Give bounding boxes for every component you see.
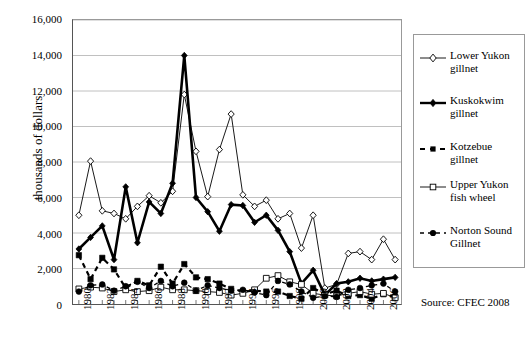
- y-tick-label: 0: [0, 300, 62, 311]
- data-point: [392, 256, 398, 263]
- data-point: [357, 275, 363, 281]
- data-point: [357, 248, 363, 255]
- data-point: [357, 285, 363, 291]
- legend-label: Norton Sound Gillnet: [450, 224, 512, 249]
- legend-label-line1: Kuskokwim: [450, 94, 504, 106]
- legend-item-kuskokwim-gillnet[interactable]: Kuskokwim gillnet: [419, 94, 520, 119]
- plot-area: [72, 19, 402, 305]
- data-point: [158, 278, 164, 284]
- data-point: [99, 282, 105, 288]
- legend-label: Lower Yukon gillnet: [450, 49, 510, 74]
- data-point: [392, 274, 398, 280]
- data-point: [263, 275, 269, 281]
- y-tick-label: 6,000: [0, 192, 62, 203]
- legend-key-open-square-icon: [419, 179, 447, 191]
- data-point: [205, 276, 210, 281]
- legend-label-line1: Norton Sound: [450, 224, 512, 236]
- data-point: [240, 287, 246, 293]
- legend-label-line2: fish wheel: [450, 191, 496, 203]
- legend-item-kotzebue-gillnet[interactable]: Kotzebue gillnet: [419, 140, 520, 165]
- data-point: [287, 282, 293, 288]
- data-point: [381, 281, 387, 287]
- data-point: [135, 240, 141, 246]
- data-point: [275, 278, 281, 284]
- data-point: [193, 275, 198, 280]
- x-tick-label: 1984: [129, 288, 140, 310]
- y-tick-label: 4,000: [0, 228, 62, 239]
- data-point: [334, 294, 340, 300]
- legend-label-line2: gillnet: [450, 107, 478, 119]
- x-tick-label: 1986: [153, 288, 164, 310]
- data-point: [193, 148, 199, 155]
- data-point: [181, 52, 187, 58]
- chart-legend: Lower Yukon gillnet Kuskokwim gillnet: [413, 34, 525, 268]
- legend-item-upper-yukon-fish-wheel[interactable]: Upper Yukon fish wheel: [419, 178, 520, 203]
- legend-item-norton-sound-gillnet[interactable]: Norton Sound Gillnet: [419, 224, 520, 249]
- x-tick-label: 1988: [176, 288, 187, 310]
- y-tick-label: 12,000: [0, 85, 62, 96]
- legend-key-filled-diamond-icon: [419, 95, 447, 107]
- x-tick-label: 2006: [388, 288, 399, 310]
- data-point: [275, 273, 281, 279]
- data-point: [123, 184, 129, 190]
- data-point: [88, 276, 93, 281]
- data-point: [287, 293, 292, 298]
- data-point: [111, 210, 117, 217]
- legend-key-open-diamond-icon: [419, 50, 447, 62]
- data-point: [298, 245, 304, 252]
- data-point: [369, 256, 375, 263]
- data-point: [76, 253, 81, 258]
- legend-key-dot-dash-circle-icon: [419, 225, 447, 237]
- data-point: [381, 290, 387, 296]
- data-point: [310, 212, 316, 219]
- y-tick-label: 8,000: [0, 157, 62, 168]
- x-tick-label: 1990: [200, 288, 211, 310]
- legend-label-line1: Kotzebue gillnet: [450, 140, 492, 165]
- data-point: [100, 255, 105, 260]
- data-point: [310, 295, 316, 301]
- x-tick-label: 1998: [294, 288, 305, 310]
- x-tick-label: 2002: [341, 288, 352, 310]
- x-tick-label: 1982: [105, 288, 116, 310]
- x-tick-label: 2004: [365, 288, 376, 310]
- legend-label-line2: gillnet: [450, 62, 478, 74]
- x-tick-label: 1994: [247, 288, 258, 310]
- data-point: [334, 288, 339, 293]
- y-tick-label: 16,000: [0, 14, 62, 25]
- data-point: [158, 264, 163, 269]
- y-tick-label: 2,000: [0, 264, 62, 275]
- y-tick-label: 10,000: [0, 121, 62, 132]
- legend-label: Upper Yukon fish wheel: [450, 178, 509, 203]
- x-tick-label: 2000: [318, 288, 329, 310]
- legend-label-line1: Lower Yukon: [450, 49, 510, 61]
- x-tick-label: 1996: [270, 288, 281, 310]
- data-point: [99, 207, 105, 214]
- data-point: [299, 282, 305, 288]
- data-point: [287, 210, 293, 217]
- legend-label: Kuskokwim gillnet: [450, 94, 504, 119]
- legend-key-dashed-square-icon: [419, 141, 447, 153]
- data-point: [380, 236, 386, 243]
- legend-item-lower-yukon-gillnet[interactable]: Lower Yukon gillnet: [419, 49, 520, 74]
- data-point: [76, 212, 82, 219]
- data-point: [275, 215, 281, 222]
- data-point: [87, 158, 93, 165]
- series-kuskokwim-gillnet: [76, 52, 398, 298]
- data-point: [216, 146, 222, 153]
- data-point: [345, 250, 351, 257]
- series-line: [79, 56, 395, 296]
- x-tick-label: 1980: [82, 288, 93, 310]
- data-point: [205, 193, 211, 200]
- data-point: [310, 285, 315, 290]
- legend-label-line1: Upper Yukon: [450, 178, 509, 190]
- legend-label-line2: Gillnet: [450, 237, 481, 249]
- data-point: [181, 280, 187, 286]
- legend-label: Kotzebue gillnet: [450, 140, 520, 165]
- data-point: [135, 279, 141, 285]
- data-point: [111, 267, 116, 272]
- x-tick-label: 1992: [223, 288, 234, 310]
- chart-canvas: [73, 20, 401, 304]
- data-point: [228, 111, 234, 118]
- source-note: Source: CFEC 2008: [421, 296, 510, 308]
- y-tick-label: 14,000: [0, 49, 62, 60]
